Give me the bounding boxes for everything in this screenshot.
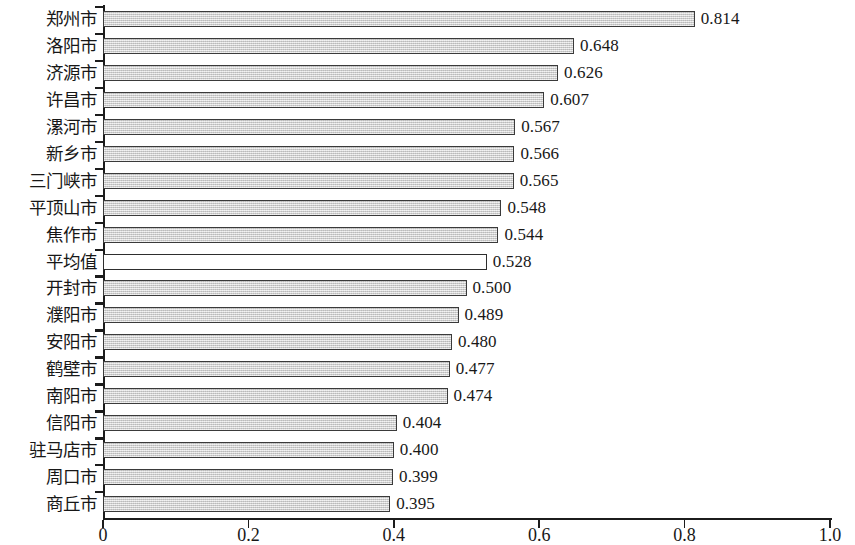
bar-row: 0.477 [103,356,830,383]
x-axis-tick-label: 0.6 [528,524,551,545]
bar [103,496,390,512]
bar-value-label: 0.814 [701,7,740,31]
y-axis-tick [95,222,104,224]
y-axis-tick [95,60,104,62]
y-axis-tick [95,6,104,8]
y-axis-label: 三门峡市 [0,168,99,195]
bar [103,227,498,243]
bar-value-label: 0.626 [564,61,603,85]
bar-row: 0.489 [103,302,830,329]
bar-value-label: 0.399 [399,465,438,489]
bar-value-label: 0.474 [454,384,493,408]
y-axis-label: 许昌市 [0,87,99,114]
x-axis-line [103,518,832,520]
x-axis-tick-label: 0 [99,524,108,545]
bar [103,11,695,27]
y-axis-label: 驻马店市 [0,437,99,464]
y-axis-label: 濮阳市 [0,302,99,329]
bar-value-label: 0.548 [507,196,546,220]
bar-value-label: 0.528 [493,250,532,274]
bar [103,334,452,350]
y-axis-label: 漯河市 [0,114,99,141]
bar [103,469,393,485]
bar [103,146,514,162]
bar-row: 0.395 [103,491,830,518]
bar-row: 0.399 [103,464,830,491]
bar [103,442,394,458]
bar [103,415,397,431]
bar-row: 0.607 [103,87,830,114]
bar-rows: 0.8140.6480.6260.6070.5670.5660.5650.548… [103,6,830,518]
bar [103,388,448,404]
y-axis-label: 南阳市 [0,383,99,410]
bar-value-label: 0.565 [520,169,559,193]
x-axis-tick-label: 0.8 [673,524,696,545]
y-axis-tick [95,410,104,412]
y-axis-label: 平顶山市 [0,195,99,222]
y-axis-label: 郑州市 [0,6,99,33]
y-axis-label: 新乡市 [0,141,99,168]
bar-row: 0.500 [103,275,830,302]
bar-row: 0.480 [103,329,830,356]
bar [103,361,450,377]
y-axis-label: 济源市 [0,60,99,87]
y-axis-tick [95,168,104,170]
y-axis-tick [95,356,104,358]
y-axis-tick [95,195,104,197]
bar-row: 0.565 [103,168,830,195]
bar [103,92,544,108]
y-axis-label: 鹤壁市 [0,356,99,383]
bar-row: 0.648 [103,33,830,60]
y-axis-label: 焦作市 [0,222,99,249]
bar-value-label: 0.404 [403,411,442,435]
bar-row: 0.567 [103,114,830,141]
bar-row: 0.404 [103,410,830,437]
bar [103,200,501,216]
bar-value-label: 0.477 [456,357,495,381]
y-axis-label: 洛阳市 [0,33,99,60]
y-axis-tick [95,302,104,304]
y-axis-label: 信阳市 [0,410,99,437]
bar-row: 0.566 [103,141,830,168]
bar-row: 0.814 [103,6,830,33]
y-axis-tick [95,464,104,466]
bar-row: 0.626 [103,60,830,87]
bar [103,280,467,296]
y-axis-tick [95,87,104,89]
bar-value-label: 0.500 [473,276,512,300]
y-axis-tick [95,33,104,35]
y-axis-tick [95,491,104,493]
bar [103,38,574,54]
bar-value-label: 0.607 [550,88,589,112]
y-axis-tick [95,275,104,277]
bar [103,119,515,135]
y-axis-label: 商丘市 [0,491,99,518]
x-axis-tick-label: 0.2 [237,524,260,545]
bar-row: 0.544 [103,222,830,249]
bar-value-label: 0.566 [520,142,559,166]
bar-value-label: 0.567 [521,115,560,139]
y-axis-category-labels: 郑州市洛阳市济源市许昌市漯河市新乡市三门峡市平顶山市焦作市平均值开封市濮阳市安阳… [0,6,99,518]
y-axis-label: 周口市 [0,464,99,491]
y-axis-tick [95,329,104,331]
bar-chart: 郑州市洛阳市济源市许昌市漯河市新乡市三门峡市平顶山市焦作市平均值开封市濮阳市安阳… [0,0,855,545]
bar-row: 0.528 [103,249,830,276]
bar-value-label: 0.544 [504,223,543,247]
bar [103,307,459,323]
bar-row: 0.474 [103,383,830,410]
bar-average [103,254,487,270]
bar-value-label: 0.395 [396,492,435,516]
x-axis-tick-label: 0.4 [383,524,406,545]
y-axis-label: 开封市 [0,275,99,302]
y-axis-label: 平均值 [0,249,99,276]
bar-value-label: 0.480 [458,330,497,354]
y-axis-tick [95,383,104,385]
bar-row: 0.400 [103,437,830,464]
bar-value-label: 0.648 [580,34,619,58]
y-axis-tick [95,141,104,143]
bar-row: 0.548 [103,195,830,222]
bar-value-label: 0.400 [400,438,439,462]
bar [103,173,514,189]
plot-area: 0.8140.6480.6260.6070.5670.5660.5650.548… [103,6,830,518]
bar-value-label: 0.489 [465,303,504,327]
